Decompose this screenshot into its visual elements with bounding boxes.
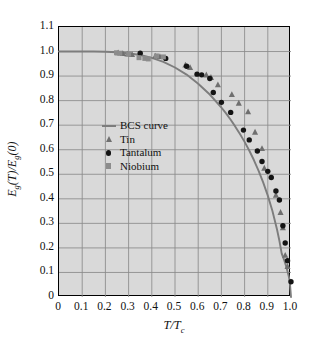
- data-point-tantalum: [285, 258, 290, 263]
- y-axis-title-part2: (T)/E: [5, 160, 19, 185]
- legend-item-niobium[interactable]: Niobium: [100, 160, 168, 174]
- legend-item-label: Tin: [117, 134, 135, 145]
- data-point-niobium: [146, 56, 151, 61]
- data-point-tin: [215, 81, 221, 87]
- x-tick-label: 0.6: [190, 301, 204, 313]
- data-point-tantalum: [219, 100, 224, 105]
- data-point-tantalum: [207, 76, 212, 81]
- data-point-tantalum: [247, 137, 252, 142]
- data-point-tin: [252, 129, 258, 135]
- data-point-tantalum: [288, 279, 293, 284]
- data-point-tantalum: [280, 223, 285, 228]
- legend-item-label: Niobium: [117, 161, 159, 172]
- x-tick-label: 0: [55, 301, 61, 313]
- line-icon: [100, 125, 117, 127]
- data-point-tantalum: [273, 188, 278, 193]
- legend-item-tin[interactable]: Tin: [100, 133, 168, 147]
- legend-marker-glyph: [106, 163, 112, 169]
- circle-marker-icon: [100, 150, 117, 156]
- data-point-niobium: [126, 52, 131, 57]
- x-axis-title-main: T/T: [163, 318, 180, 332]
- x-tick-label: 0.8: [236, 301, 250, 313]
- x-axis-title: T/Tc: [58, 318, 290, 335]
- y-axis-title: Eg(T)/Eg(0): [5, 94, 21, 244]
- data-point-tantalum: [138, 51, 143, 56]
- y-axis-title-part1: E: [5, 189, 19, 196]
- chart-legend: BCS curveTinTantalumNiobium: [100, 119, 168, 173]
- data-point-tantalum: [283, 240, 288, 245]
- data-point-tantalum: [265, 169, 270, 174]
- x-tick-label: 0.1: [74, 301, 88, 313]
- y-tick-label: 0.9: [6, 69, 54, 81]
- chart-figure: 00.10.20.30.40.50.60.70.80.91.01.1 Eg(T)…: [0, 0, 319, 343]
- data-point-niobium: [161, 54, 166, 59]
- data-point-niobium: [137, 55, 142, 60]
- y-axis-title-sub1: g: [11, 185, 21, 189]
- x-tick-label: 0.4: [144, 301, 158, 313]
- data-point-niobium: [117, 51, 122, 56]
- data-point-tin: [278, 209, 284, 215]
- data-point-tantalum: [255, 148, 260, 153]
- y-axis-title-sub2: g: [11, 156, 21, 160]
- data-point-tantalum: [228, 110, 233, 115]
- y-axis-title-part3: (0): [5, 142, 19, 156]
- y-tick-label: 0.1: [6, 266, 54, 278]
- triangle-marker-icon: [100, 136, 117, 142]
- x-tick-label: 1.0: [283, 301, 297, 313]
- data-layer: [59, 27, 289, 295]
- legend-item-label: BCS curve: [117, 120, 168, 131]
- data-point-tin: [245, 108, 251, 114]
- x-tick-label: 0.5: [167, 301, 181, 313]
- y-tick-label: 1.1: [6, 20, 54, 32]
- data-point-tantalum: [211, 90, 216, 95]
- x-axis-title-sub: c: [181, 325, 185, 335]
- legend-item-label: Tantalum: [117, 147, 161, 158]
- series-line-0: [59, 52, 291, 297]
- x-axis-tick-labels: 00.10.20.30.40.50.60.70.80.91.0: [58, 298, 290, 312]
- data-point-tin: [229, 91, 235, 97]
- x-tick-label: 0.3: [120, 301, 134, 313]
- y-tick-label: 1.0: [6, 45, 54, 57]
- legend-item-tantalum[interactable]: Tantalum: [100, 146, 168, 160]
- data-point-niobium: [154, 53, 159, 58]
- x-tick-label: 0.9: [260, 301, 274, 313]
- data-point-tantalum: [184, 64, 189, 69]
- data-point-tantalum: [199, 72, 204, 77]
- legend-item-bcs-curve[interactable]: BCS curve: [100, 119, 168, 133]
- legend-marker-glyph: [106, 150, 112, 156]
- data-point-tantalum: [241, 127, 246, 132]
- square-marker-icon: [100, 163, 117, 169]
- data-point-tantalum: [277, 197, 282, 202]
- data-point-tantalum: [259, 159, 264, 164]
- data-point-tantalum: [269, 175, 274, 180]
- data-point-tantalum: [194, 71, 199, 76]
- legend-marker-glyph: [106, 136, 112, 142]
- y-tick-label: 0: [6, 290, 54, 302]
- x-tick-label: 0.2: [97, 301, 111, 313]
- data-point-tin: [236, 100, 242, 106]
- legend-marker-glyph: [102, 125, 116, 127]
- x-tick-label: 0.7: [213, 301, 227, 313]
- plot-area: [58, 26, 290, 296]
